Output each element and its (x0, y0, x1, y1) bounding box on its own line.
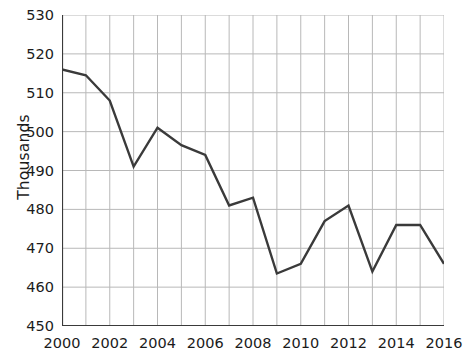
x-tick-label: 2004 (136, 336, 180, 351)
x-tick-label: 2016 (422, 336, 466, 351)
x-tick-label: 2008 (231, 336, 275, 351)
x-tick-label: 2002 (88, 336, 132, 351)
x-tick-label: 2000 (40, 336, 84, 351)
plot-area (62, 15, 444, 326)
x-tick-label: 2014 (374, 336, 418, 351)
x-tick-label: 2012 (327, 336, 371, 351)
x-tick-label: 2010 (279, 336, 323, 351)
plot-svg (62, 15, 444, 326)
x-tick-label: 2006 (183, 336, 227, 351)
